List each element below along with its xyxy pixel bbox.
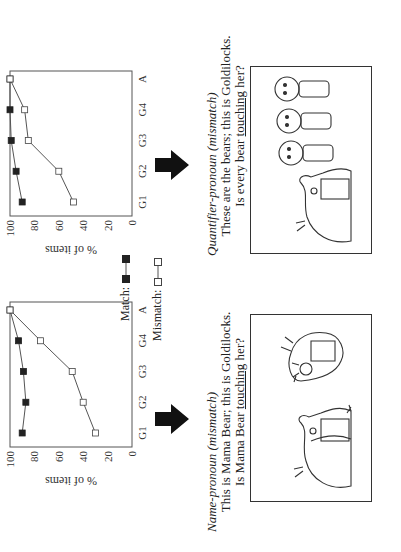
data-point-mismatch (80, 399, 86, 405)
caption-line-1: This is Mama Bear; this is Goldilocks. (219, 292, 233, 532)
data-point-mismatch (70, 199, 76, 205)
data-point-match (13, 168, 19, 174)
x-tick-label: G1 (136, 426, 148, 439)
x-tick-label: G3 (136, 133, 148, 147)
data-point-match (16, 338, 22, 344)
y-tick-label: 100 (4, 220, 16, 237)
chart-svg-quantifier-pronoun: 020406080100% of itemsG1G2G3G4A (0, 0, 150, 276)
y-tick-label: 80 (28, 451, 40, 463)
caption-line-2-suffix: her? (232, 338, 247, 364)
data-point-match (20, 369, 26, 375)
x-tick-label: A (136, 75, 148, 83)
caption-quantifier-pronoun: Quantifier-pronoun (mismatch) These are … (205, 16, 247, 256)
y-tick-label: 40 (77, 451, 89, 463)
legend-label-match: Match: (118, 287, 133, 321)
caption-line-2: Is every bear touching her? (233, 16, 247, 256)
data-point-mismatch (25, 138, 31, 144)
y-tick-label: 40 (77, 220, 89, 232)
data-point-match (7, 107, 13, 113)
caption-line-1: These are the bears; this is Goldilocks. (219, 16, 233, 256)
caption-line-2: Is Mama Bear touching her? (233, 292, 247, 532)
caption-line-2-suffix: her? (232, 65, 247, 91)
illustration-mama-bear-goldilocks (250, 314, 372, 502)
goldilocks-drawing (296, 169, 351, 242)
y-axis-label: % of items (45, 243, 97, 257)
panel-quantifier-pronoun: 020406080100% of itemsG1G2G3G4A Quantifi… (0, 0, 401, 276)
chart-quantifier-pronoun: 020406080100% of itemsG1G2G3G4A (0, 0, 150, 276)
data-point-mismatch (92, 430, 98, 436)
data-point-mismatch (38, 338, 44, 344)
mama-bear-drawing (281, 333, 343, 382)
panel-name-pronoun: 020406080100% of itemsG1G2G3G4A Name-pro… (0, 276, 401, 552)
y-tick-label: 60 (53, 451, 65, 463)
bear-drawings (275, 77, 333, 165)
data-point-match (19, 199, 25, 205)
caption-underlined-word: touching (232, 91, 247, 137)
down-arrow-icon (155, 404, 189, 434)
illustration-bears-goldilocks (250, 66, 372, 254)
illustration-svg (251, 315, 371, 501)
x-tick-label: G1 (136, 195, 148, 208)
down-arrow-icon (155, 150, 189, 180)
caption-underlined-word: touching (232, 364, 247, 410)
figure: 020406080100% of itemsG1G2G3G4A Name-pro… (0, 0, 401, 552)
data-point-match (23, 399, 29, 405)
data-point-mismatch (56, 168, 62, 174)
series-line-mismatch (10, 79, 73, 202)
caption-line-2-prefix: Is Mama Bear (232, 409, 247, 486)
x-tick-label: G3 (136, 364, 148, 378)
y-tick-label: 100 (4, 451, 16, 468)
legend-label-mismatch: Mismatch: (150, 290, 165, 341)
illustration-svg (251, 67, 371, 253)
data-point-mismatch (7, 307, 13, 313)
data-point-mismatch (69, 369, 75, 375)
y-tick-label: 80 (28, 220, 40, 232)
data-point-match (8, 138, 14, 144)
y-tick-label: 20 (102, 220, 114, 232)
data-point-match (19, 430, 25, 436)
caption-title: Quantifier-pronoun (mismatch) (205, 16, 219, 256)
x-tick-label: G2 (136, 396, 148, 409)
caption-title: Name-pronoun (mismatch) (205, 292, 219, 532)
caption-name-pronoun: Name-pronoun (mismatch) This is Mama Bea… (205, 292, 247, 532)
caption-line-2-prefix: Is every bear (232, 136, 247, 206)
data-point-mismatch (7, 76, 13, 82)
x-tick-label: G2 (136, 165, 148, 178)
y-tick-label: 20 (102, 451, 114, 463)
y-tick-label: 0 (126, 451, 138, 457)
x-tick-label: G4 (136, 103, 148, 117)
y-tick-label: 60 (53, 220, 65, 232)
y-axis-label: % of items (45, 474, 97, 488)
y-tick-label: 0 (126, 220, 138, 226)
goldilocks-drawing (294, 405, 351, 487)
data-point-mismatch (22, 107, 28, 113)
